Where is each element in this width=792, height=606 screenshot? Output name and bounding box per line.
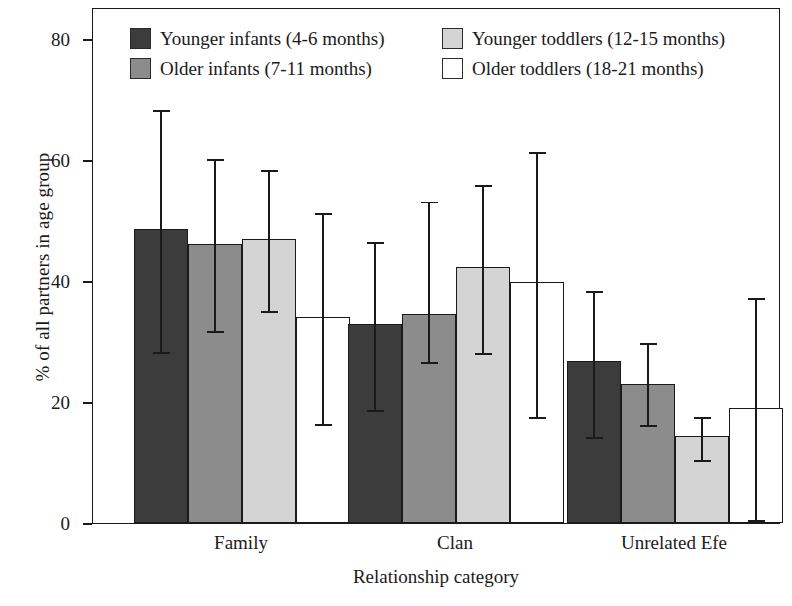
error-bar-cap-lower (315, 424, 332, 426)
y-tick-label: 0 (34, 514, 70, 533)
plot-area: Younger infants (4-6 months) Younger tod… (92, 8, 780, 524)
error-bar-line (647, 344, 649, 426)
error-bar-cap-lower (153, 352, 170, 354)
error-bar-cap-upper (640, 343, 657, 345)
y-axis-title: % of all partners in age group (32, 27, 54, 507)
error-bar-cap-lower (421, 362, 438, 364)
legend-label: Younger toddlers (12-15 months) (472, 29, 725, 48)
x-axis-title: Relationship category (92, 566, 780, 588)
error-bar-line (214, 160, 216, 332)
error-bar-line (374, 243, 376, 411)
y-tick-label: 40 (34, 272, 70, 291)
error-bar-cap-lower (748, 520, 765, 522)
error-bar-cap-upper (694, 417, 711, 419)
legend-item-younger-infants: Younger infants (4-6 months) (130, 28, 442, 49)
error-bar-cap-lower (261, 311, 278, 313)
legend-swatch-icon (442, 28, 463, 49)
error-bar-line (482, 186, 484, 354)
error-bar-cap-upper (261, 170, 278, 172)
error-bar-cap-upper (748, 298, 765, 300)
error-bar-line (322, 214, 324, 425)
error-bar-cap-upper (153, 110, 170, 112)
legend-swatch-icon (130, 58, 151, 79)
error-bar-line (593, 292, 595, 438)
y-tick-mark (83, 402, 92, 404)
error-bar-line (268, 171, 270, 312)
legend-row: Older infants (7-11 months) Older toddle… (130, 53, 730, 83)
legend-row: Younger infants (4-6 months) Younger tod… (130, 23, 730, 53)
error-bar-cap-upper (207, 159, 224, 161)
error-bar-cap-lower (475, 353, 492, 355)
error-bar-cap-lower (586, 437, 603, 439)
y-tick-label: 20 (34, 393, 70, 412)
error-bar-cap-lower (529, 417, 546, 419)
y-tick-label: 60 (34, 151, 70, 170)
error-bar-cap-upper (315, 213, 332, 215)
error-bar-cap-lower (207, 331, 224, 333)
y-tick-label: 80 (34, 30, 70, 49)
error-bar-cap-lower (640, 425, 657, 427)
error-bar-cap-lower (694, 460, 711, 462)
y-tick-mark (83, 39, 92, 41)
y-tick-mark (83, 281, 92, 283)
plot-inner: Younger infants (4-6 months) Younger tod… (93, 9, 779, 523)
error-bar-line (536, 153, 538, 418)
error-bar-cap-upper (475, 185, 492, 187)
error-bar-line (701, 418, 703, 461)
legend-item-younger-toddlers: Younger toddlers (12-15 months) (442, 28, 725, 49)
y-tick-mark (83, 523, 92, 525)
error-bar-line (428, 203, 430, 363)
error-bar-cap-upper (529, 152, 546, 154)
x-tick-label: Family (141, 532, 341, 554)
x-tick-label: Unrelated Efe (574, 532, 774, 554)
legend-swatch-icon (442, 58, 463, 79)
chart-figure: % of all partners in age group 806040200… (0, 0, 792, 606)
chart-legend: Younger infants (4-6 months) Younger tod… (130, 23, 730, 83)
error-bar-cap-upper (586, 291, 603, 293)
legend-item-older-toddlers: Older toddlers (18-21 months) (442, 58, 704, 79)
legend-swatch-icon (130, 28, 151, 49)
error-bar-line (755, 299, 757, 521)
legend-label: Older infants (7-11 months) (160, 59, 372, 78)
x-tick-label: Clan (355, 532, 555, 554)
error-bar-line (160, 111, 162, 353)
legend-item-older-infants: Older infants (7-11 months) (130, 58, 442, 79)
y-tick-mark (83, 160, 92, 162)
legend-label: Older toddlers (18-21 months) (472, 59, 704, 78)
error-bar-cap-lower (367, 410, 384, 412)
legend-label: Younger infants (4-6 months) (160, 29, 384, 48)
error-bar-cap-upper (367, 242, 384, 244)
error-bar-cap-upper (421, 202, 438, 204)
